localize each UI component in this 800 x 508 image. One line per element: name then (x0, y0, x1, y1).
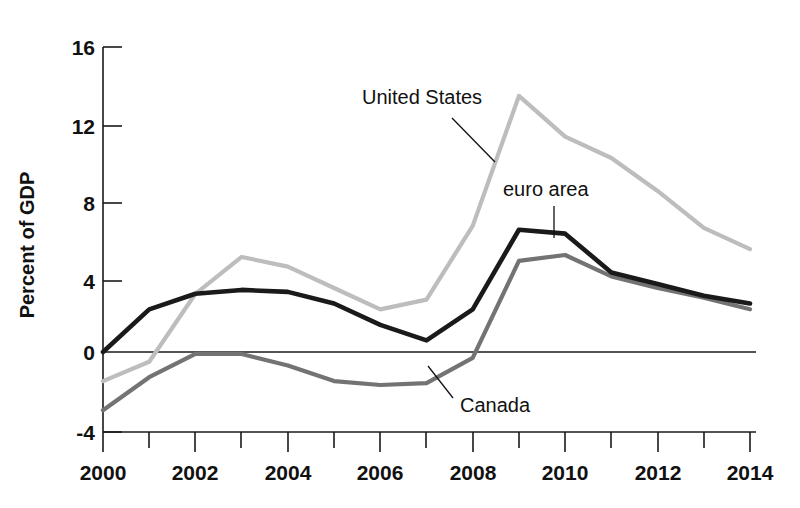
annotation-label-euro-area: euro area (503, 178, 589, 200)
series-layer (103, 96, 750, 410)
line-chart-svg: Percent of GDP 16 12 8 4 0 -4 (0, 0, 800, 508)
annotation-euro-area: euro area (503, 178, 589, 238)
annotation-label-canada: Canada (460, 394, 531, 416)
x-tick-label-2004: 2004 (265, 461, 312, 484)
y-tick-label-16: 16 (72, 36, 95, 59)
y-tick-label-8: 8 (83, 192, 95, 215)
y-tick-label-neg4: -4 (76, 421, 95, 444)
annotation-label-united-states: United States (362, 86, 482, 108)
x-tick-label-2000: 2000 (80, 461, 127, 484)
chart-container: Percent of GDP 16 12 8 4 0 -4 (0, 0, 800, 508)
y-tick-label-4: 4 (83, 270, 95, 293)
annotation-leader-united-states (452, 118, 495, 162)
x-tick-label-2014: 2014 (727, 461, 774, 484)
x-tick-label-2002: 2002 (172, 461, 219, 484)
y-tick-label-0: 0 (83, 341, 95, 364)
y-tick-label-12: 12 (72, 115, 95, 138)
x-tick-label-2010: 2010 (542, 461, 589, 484)
annotation-united-states: United States (362, 86, 495, 162)
x-tick-label-2006: 2006 (357, 461, 404, 484)
series-line-canada (103, 255, 750, 410)
x-tick-label-2008: 2008 (450, 461, 497, 484)
y-axis-title: Percent of GDP (16, 172, 38, 319)
x-tick-group (103, 432, 750, 452)
x-tick-label-2012: 2012 (635, 461, 682, 484)
